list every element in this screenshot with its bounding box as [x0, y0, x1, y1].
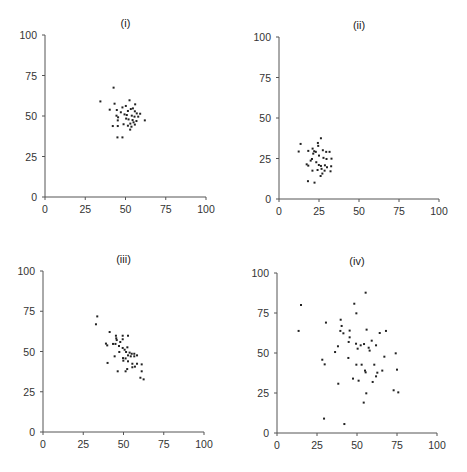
data-point	[393, 389, 395, 391]
data-point	[341, 325, 343, 327]
data-point	[119, 341, 121, 343]
data-point	[307, 165, 309, 167]
data-point	[130, 126, 132, 128]
data-point	[334, 351, 336, 353]
data-point	[320, 137, 322, 139]
y-tick-label: 75	[257, 307, 269, 319]
data-point	[127, 354, 129, 356]
data-point	[109, 331, 111, 333]
data-point	[312, 148, 314, 150]
y-tick-label: 100	[251, 267, 269, 279]
data-point	[122, 338, 124, 340]
data-point	[131, 353, 133, 355]
data-point	[339, 330, 341, 332]
data-point	[116, 339, 118, 341]
data-point	[396, 369, 398, 371]
data-point	[134, 124, 136, 126]
data-point	[353, 303, 355, 305]
y-tick-label: 25	[23, 386, 35, 398]
data-point	[130, 108, 132, 110]
data-point	[325, 322, 327, 324]
data-point	[371, 340, 373, 342]
data-point	[330, 165, 332, 167]
data-point	[366, 329, 368, 331]
data-point	[132, 119, 134, 121]
data-point	[322, 157, 324, 159]
scatter-figure: 02550751000255075100(i)02550751000255075…	[0, 0, 467, 472]
scatter-plots-canvas: 02550751000255075100(i)02550751000255075…	[0, 0, 467, 472]
data-point	[312, 153, 314, 155]
data-point	[125, 118, 127, 120]
y-tick-label: 100	[253, 31, 271, 43]
data-point	[375, 344, 377, 346]
data-point	[125, 357, 127, 359]
data-point	[118, 351, 120, 353]
x-tick-label: 100	[428, 439, 446, 451]
data-point	[121, 106, 123, 108]
data-point	[358, 380, 360, 382]
data-point	[127, 360, 129, 362]
data-point	[122, 357, 124, 359]
x-tick-label: 25	[77, 438, 89, 450]
data-point	[106, 344, 108, 346]
data-point	[368, 347, 370, 349]
data-point	[324, 164, 326, 166]
data-point	[133, 121, 135, 123]
data-point	[117, 116, 119, 118]
data-point	[134, 116, 136, 118]
y-tick-label: 75	[23, 305, 35, 317]
y-tick-label: 0	[29, 426, 35, 438]
y-tick-label: 100	[19, 29, 37, 41]
data-point	[133, 355, 135, 357]
data-point	[300, 304, 302, 306]
data-point	[355, 343, 357, 345]
data-point	[122, 347, 124, 349]
data-point	[321, 168, 323, 170]
data-point	[115, 335, 117, 337]
data-point	[321, 359, 323, 361]
data-point	[128, 118, 130, 120]
data-point	[141, 363, 143, 365]
data-point	[317, 169, 319, 171]
y-tick-label: 25	[257, 387, 269, 399]
data-point	[395, 352, 397, 354]
data-point	[105, 343, 107, 345]
data-point	[372, 381, 374, 383]
data-point	[397, 391, 399, 393]
data-point	[326, 158, 328, 160]
data-point	[315, 151, 317, 153]
data-point	[318, 155, 320, 157]
data-point	[375, 375, 377, 377]
data-point	[363, 402, 365, 404]
data-point	[141, 370, 143, 372]
data-point	[310, 160, 312, 162]
data-point	[324, 170, 326, 172]
data-point	[365, 292, 367, 294]
data-point	[347, 357, 349, 359]
data-point	[337, 383, 339, 385]
data-point	[114, 103, 116, 105]
data-point	[127, 125, 129, 127]
data-point	[320, 165, 322, 167]
data-point	[307, 180, 309, 182]
data-point	[369, 350, 371, 352]
data-point	[365, 371, 367, 373]
y-tick-label: 50	[257, 347, 269, 359]
data-point	[125, 351, 127, 353]
y-tick-label: 75	[259, 72, 271, 84]
x-tick-label: 100	[430, 205, 448, 217]
x-tick-label: 25	[313, 205, 325, 217]
x-tick-label: 50	[353, 205, 365, 217]
data-point	[320, 175, 322, 177]
scatter-panel-2: 02550751000255075100(ii)	[253, 19, 447, 217]
data-point	[298, 330, 300, 332]
data-point	[136, 354, 138, 356]
data-point	[115, 337, 117, 339]
data-point	[139, 377, 141, 379]
data-point	[125, 370, 127, 372]
data-point	[120, 111, 122, 113]
data-point	[96, 315, 98, 317]
data-point	[318, 164, 320, 166]
y-tick-label: 50	[259, 112, 271, 124]
data-point	[112, 343, 114, 345]
